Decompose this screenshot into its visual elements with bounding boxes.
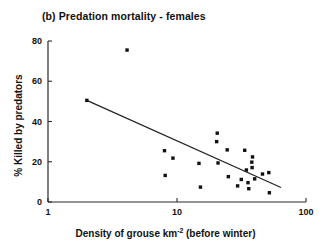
y-tick-label: 0 <box>37 197 42 207</box>
axes <box>48 41 306 202</box>
x-tick-label: 100 <box>298 207 313 217</box>
regression-line <box>87 100 281 187</box>
regression-line-group <box>87 100 281 187</box>
x-tick-label: 1 <box>45 207 50 217</box>
data-point <box>246 181 249 184</box>
y-tick-label: 40 <box>32 117 42 127</box>
data-point <box>216 131 219 134</box>
data-point <box>240 178 243 181</box>
chart-figure: (b) Predation mortality - females % Kill… <box>0 0 331 251</box>
data-point <box>171 156 174 159</box>
data-point <box>261 172 264 175</box>
x-axis-ticks: 110100 <box>45 198 313 217</box>
data-point <box>199 185 202 188</box>
y-tick-label: 60 <box>32 76 42 86</box>
data-point <box>236 184 239 187</box>
data-point <box>268 191 271 194</box>
y-tick-label: 20 <box>32 157 42 167</box>
y-tick-label: 80 <box>32 36 42 46</box>
data-point <box>245 168 248 171</box>
data-point <box>163 149 166 152</box>
data-point <box>267 171 270 174</box>
data-point <box>197 162 200 165</box>
data-point <box>253 177 256 180</box>
data-point <box>125 48 128 51</box>
data-point <box>247 187 250 190</box>
data-point <box>250 166 253 169</box>
data-point <box>163 174 166 177</box>
data-points-group <box>85 48 271 194</box>
x-tick-label: 10 <box>172 207 182 217</box>
data-point <box>215 140 218 143</box>
data-point <box>226 148 229 151</box>
data-point <box>227 175 230 178</box>
data-point <box>251 155 254 158</box>
data-point <box>250 160 253 163</box>
data-point <box>243 149 246 152</box>
data-point <box>216 161 219 164</box>
plot-area: 020406080 110100 <box>0 0 331 251</box>
y-axis-ticks: 020406080 <box>32 36 52 207</box>
data-point <box>85 99 88 102</box>
